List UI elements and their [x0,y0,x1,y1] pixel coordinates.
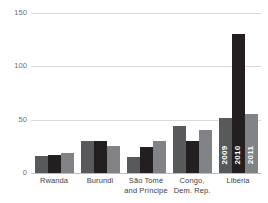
bar-liberia-2011: 2011 [245,114,258,173]
bar-sao-tome-2009 [127,157,140,173]
bar-chart: 150 100 50 0 2009 [0,0,268,203]
axis-baseline-0 [31,173,261,174]
bar-rwanda-2011 [61,153,74,173]
ytick-label-50: 50 [3,116,27,124]
x-label-sao-tome-line2: and Príncipe [123,186,169,196]
x-label-sao-tome-line1: São Tomé [129,176,163,185]
legend-label-2011: 2011 [247,146,255,165]
x-label-liberia-line1: Liberia [226,176,249,185]
bar-rwanda-2010 [48,155,61,173]
x-label-rwanda-line1: Rwanda [40,176,68,185]
bar-congo-2010 [186,141,199,173]
bar-groups: 2009 2010 2011 [31,13,261,173]
bar-group-liberia: 2009 2010 2011 [215,13,261,173]
bar-group-congo-dem-rep [169,13,215,173]
x-label-sao-tome-and-principe: São Tomé and Príncipe [123,176,169,196]
legend-label-2009: 2009 [221,146,229,165]
x-axis-labels: Rwanda Burundi São Tomé and Príncipe Con… [31,176,261,196]
bar-congo-2009 [173,126,186,173]
ytick-label-150: 150 [3,9,27,17]
ytick-label-0: 0 [3,169,27,177]
x-label-burundi-line1: Burundi [87,176,114,185]
bar-sao-tome-2011 [153,141,166,173]
ytick-label-100: 100 [3,62,27,70]
legend-label-2010: 2010 [234,146,242,165]
bar-burundi-2010 [94,141,107,173]
bar-congo-2011 [199,130,212,173]
bar-group-sao-tome-and-principe [123,13,169,173]
bar-burundi-2011 [107,146,120,173]
x-label-congo-line1: Congo, [180,176,205,185]
bar-group-rwanda [31,13,77,173]
x-label-burundi: Burundi [77,176,123,196]
x-label-congo-line2: Dem. Rep. [169,186,215,196]
bar-burundi-2009 [81,141,94,173]
x-label-congo-dem-rep: Congo, Dem. Rep. [169,176,215,196]
bar-rwanda-2009 [35,156,48,173]
x-label-liberia: Liberia [215,176,261,196]
bar-liberia-2010: 2010 [232,34,245,173]
bar-group-burundi [77,13,123,173]
bar-liberia-2009: 2009 [219,118,232,173]
x-label-rwanda: Rwanda [31,176,77,196]
bar-sao-tome-2010 [140,147,153,173]
